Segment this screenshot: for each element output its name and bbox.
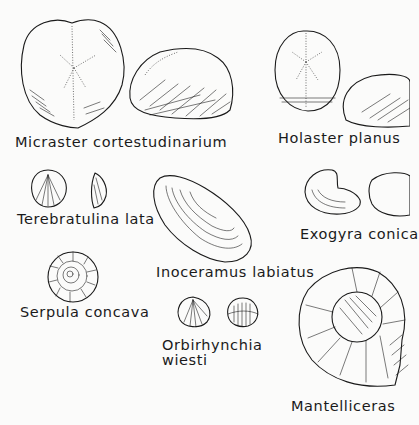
label-serpula: Serpula concava	[20, 304, 149, 321]
label-inoceramus: Inoceramus labiatus	[156, 264, 314, 281]
micraster-top-icon	[21, 20, 124, 128]
label-exogyra: Exogyra conica	[300, 226, 419, 243]
label-micraster: Micraster cortestudinarium	[15, 134, 227, 151]
holaster-side-icon	[343, 74, 410, 127]
serpula-icon	[48, 252, 98, 302]
holaster-top-icon	[275, 31, 340, 111]
label-holaster: Holaster planus	[278, 130, 400, 147]
orbirhynchia-icon	[178, 297, 258, 327]
mantelliceras-icon	[299, 268, 408, 387]
terebratulina-icon	[32, 170, 107, 208]
exogyra-icon	[305, 170, 410, 216]
label-mantelliceras: Mantelliceras	[291, 398, 395, 415]
inoceramus-icon	[154, 176, 252, 262]
label-terebratulina: Terebratulina lata	[17, 211, 155, 228]
micraster-side-icon	[130, 49, 233, 119]
label-orbirhynchia-line2: wiesti	[162, 352, 208, 369]
